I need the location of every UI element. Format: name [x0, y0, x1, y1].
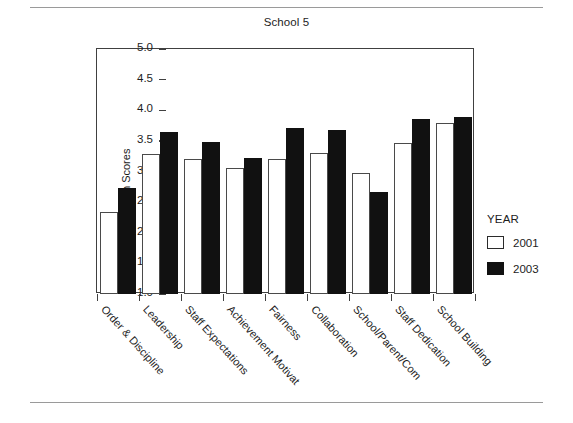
bar-2003 — [328, 130, 346, 294]
bars-layer — [97, 49, 473, 292]
x-tick-mark — [475, 294, 476, 301]
bar-2003 — [160, 132, 178, 294]
bar-2001 — [142, 154, 160, 294]
x-tick-mark — [349, 294, 350, 301]
bar-2003 — [454, 117, 472, 294]
legend-item-2003: 2003 — [487, 262, 567, 275]
bar-2001 — [100, 212, 118, 294]
x-tick-mark — [307, 294, 308, 301]
bar-2003 — [118, 188, 136, 294]
bar-2003 — [244, 158, 262, 294]
legend-item-2001: 2001 — [487, 236, 567, 249]
legend-label-2003: 2003 — [513, 263, 539, 275]
bar-2001 — [352, 173, 370, 294]
x-tick-label: Achievement Motivat — [225, 303, 302, 387]
legend-swatch-2003-icon — [487, 262, 504, 275]
bar-2001 — [436, 123, 454, 295]
x-tick-mark — [181, 294, 182, 301]
legend: YEAR 2001 2003 — [487, 213, 567, 288]
x-tick-label: Fairness — [267, 303, 304, 342]
bar-2003 — [370, 192, 388, 294]
chart-title: School 5 — [0, 16, 573, 28]
x-tick-label: Leadership — [141, 303, 186, 351]
bar-2003 — [202, 142, 220, 294]
bottom-divider-rule — [30, 402, 543, 403]
x-tick-mark — [433, 294, 434, 301]
x-tick-mark — [391, 294, 392, 301]
x-tick-mark — [223, 294, 224, 301]
bar-2001 — [226, 168, 244, 294]
bar-2001 — [184, 159, 202, 294]
x-tick-mark — [139, 294, 140, 301]
legend-swatch-2001-icon — [487, 236, 504, 249]
bar-2003 — [286, 128, 304, 294]
plot-area: Mean Scores 5.04.54.03.53.02.52.01.51.0 … — [96, 48, 474, 293]
bar-2001 — [394, 143, 412, 294]
legend-label-2001: 2001 — [513, 237, 539, 249]
legend-title: YEAR — [487, 213, 567, 225]
bar-2001 — [310, 153, 328, 294]
x-tick-mark — [97, 294, 98, 301]
x-tick-mark — [265, 294, 266, 301]
bar-2003 — [412, 119, 430, 294]
top-divider-rule — [30, 7, 543, 8]
bar-2001 — [268, 159, 286, 294]
